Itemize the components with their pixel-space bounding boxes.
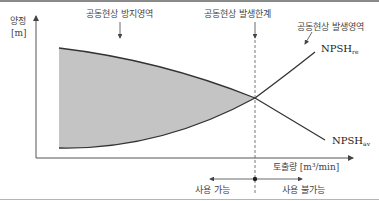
occurrence-region-label: 공동현상 발생영역	[297, 22, 364, 32]
npsh-re-name: NPSH	[321, 43, 352, 54]
npsh-re-label: NPSHre	[321, 44, 358, 57]
limit-dot	[253, 177, 257, 181]
unusable-label: 사용 불가능	[282, 185, 325, 195]
npsh-av-label: NPSHav	[332, 136, 370, 149]
npsh-av-name: NPSH	[332, 135, 363, 146]
usable-label: 사용 가능	[195, 185, 230, 195]
x-axis-label: 토출량 [m³/min]	[273, 162, 339, 172]
occurrence-arrow	[305, 32, 312, 44]
occurrence-limit-label: 공동현상 발생한계	[204, 9, 271, 19]
y-axis-label: 양정	[10, 16, 26, 26]
npsh-av-sub: av	[363, 140, 370, 147]
npsh-re-sub: re	[352, 48, 358, 55]
y-axis-unit: [m]	[11, 28, 27, 38]
prevention-region-label: 공동현상 방지영역	[86, 9, 153, 19]
prevention-region-fill	[59, 48, 255, 148]
